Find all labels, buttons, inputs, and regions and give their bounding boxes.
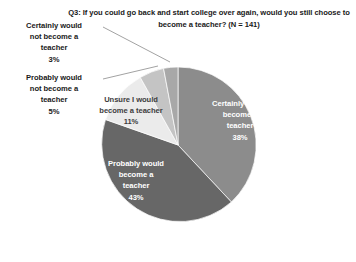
slice-label-certainly-would-not: Certainly would not become a teacher 3% [6, 20, 102, 65]
label-line-1: Unsure I would [104, 95, 158, 104]
label-percent: 11% [92, 116, 170, 127]
label-line-2: not become a [30, 84, 78, 93]
label-percent: 3% [6, 54, 102, 65]
label-line-1: Probably would [26, 73, 82, 82]
label-line-2: become a [223, 110, 258, 119]
label-line-3: teacher [41, 43, 68, 52]
slice-label-probably-would-not: Probably would not become a teacher 5% [6, 72, 102, 117]
label-percent: 38% [196, 132, 284, 143]
slice-label-certainly-would: Certainly would become a teacher 38% [196, 98, 284, 143]
label-line-2: not become a [30, 32, 78, 41]
label-line-1: Probably would [108, 159, 164, 168]
slice-label-probably-would: Probably would become a teacher 43% [92, 158, 180, 203]
label-line-1: Certainly would [212, 99, 268, 108]
label-line-2: become a [119, 170, 154, 179]
label-line-1: Certainly would [26, 21, 82, 30]
label-line-3: teacher [227, 121, 254, 130]
label-line-2: become a teacher [99, 106, 162, 115]
label-line-3: teacher [123, 181, 150, 190]
slice-label-unsure: Unsure I would become a teacher 11% [92, 94, 170, 128]
label-percent: 43% [92, 192, 180, 203]
label-line-3: teacher [41, 95, 68, 104]
label-percent: 5% [6, 106, 102, 117]
leader-line-certainly-would-not [103, 27, 170, 62]
